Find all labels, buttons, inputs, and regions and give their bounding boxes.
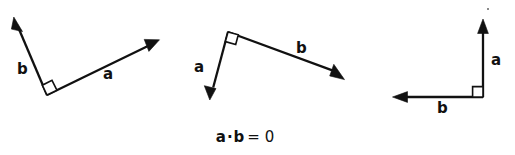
panel-1-acute-orientation [11,17,159,95]
panel-3-vector-b-label: b [437,101,448,116]
panel-1-vector-b-arrowhead [11,17,22,32]
orthogonal-vectors-figure: b a a b a b a·b= 0 [0,0,515,155]
panel-3-right-angle-marker [473,87,483,97]
panel-1-right-angle-marker [42,80,57,95]
panel-1-vector-a-label: a [103,67,113,82]
scan-speck [487,8,489,10]
caption-equals-zero: = 0 [244,128,274,146]
panel-3-vector-a-label: a [491,53,501,68]
caption-vector-b: b [234,128,245,146]
panel-2-apex-orientation [204,32,344,100]
panel-1-vector-a-shaft [47,46,149,96]
panel-2-vector-b-arrowhead [330,64,345,79]
caption-dot-operator: · [226,128,234,146]
panel-2-vector-a-arrowhead [204,86,216,100]
panel-2-right-angle-marker [225,32,238,44]
panel-1-vector-a-arrowhead [144,39,159,51]
panel-3-vector-b-arrowhead [393,92,408,103]
panel-2-vector-b-shaft [228,32,333,71]
panel-2-vector-b-label: b [296,41,307,56]
panel-1-vector-b-label: b [17,62,28,77]
caption-dot-product-equals-zero: a·b= 0 [0,128,490,146]
panel-2-vector-a-label: a [194,60,204,75]
caption-vector-a: a [216,128,226,146]
panel-3-vector-a-arrowhead [478,19,489,34]
panel-3-axis-aligned-orientation [393,19,489,102]
